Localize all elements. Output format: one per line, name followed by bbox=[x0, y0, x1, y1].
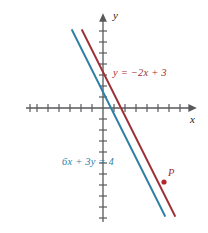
point-p-marker bbox=[161, 179, 166, 184]
x-axis-label: x bbox=[190, 114, 195, 125]
y-axis-label: y bbox=[113, 10, 118, 21]
line-y-equals-minus-2x-plus-3 bbox=[82, 30, 175, 216]
line-6x-plus-3y-equals-4 bbox=[72, 30, 165, 216]
coordinate-plane-svg bbox=[0, 0, 208, 233]
line-graph-figure: y x y = −2x + 3 6x + 3y = 4 P bbox=[0, 0, 208, 233]
red-line-equation-label: y = −2x + 3 bbox=[113, 68, 167, 79]
blue-line-equation-label: 6x + 3y = 4 bbox=[62, 157, 114, 168]
point-p-label: P bbox=[168, 168, 174, 179]
